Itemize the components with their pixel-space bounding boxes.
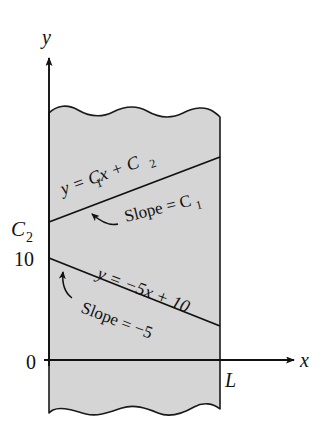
y-axis-label: y — [40, 26, 51, 49]
origin-label: 0 — [26, 351, 36, 373]
tick-label-c2-base: C — [11, 217, 26, 241]
tick-label-ten: 10 — [14, 248, 34, 270]
figure-container: y x 0 L C 2 10 y = C 1 x + C 2 Slope = C… — [0, 0, 325, 445]
tick-label-c2-subscript: 2 — [26, 230, 33, 245]
wall-temperature-profile-figure: y x 0 L C 2 10 y = C 1 x + C 2 Slope = C… — [0, 0, 325, 445]
x-axis-label: x — [299, 349, 309, 371]
wall-thickness-label: L — [224, 369, 236, 391]
tick-label-c2: C 2 — [11, 217, 33, 245]
